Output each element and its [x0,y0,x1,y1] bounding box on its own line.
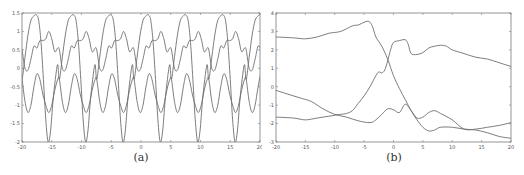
x-tick-label: 0 [139,144,142,150]
y-tick-label: -1 [15,102,20,108]
chart-a-caption: (a) [121,151,161,164]
y-tick-label: 4 [271,10,274,16]
y-tick-label: -3 [269,139,274,145]
x-tick-label: 0 [392,144,395,150]
chart-b-caption: (b) [374,151,414,164]
chart-panel-b: -20-15-10-505101520-3-2-101234 (b) [262,0,524,175]
y-tick-label: -2 [269,120,274,126]
y-tick-label: 3 [271,28,274,34]
series-line-curve-rising [276,40,511,120]
series-line-curve-3 [0,74,262,113]
x-tick-label: -15 [301,144,309,150]
x-tick-label: 15 [227,144,233,150]
x-tick-label: -10 [77,144,85,150]
y-tick-label: 0 [17,65,20,71]
x-tick-label: 5 [169,144,172,150]
y-tick-label: -1 [269,102,274,108]
x-tick-label: 5 [421,144,424,150]
axes-box [276,13,511,142]
x-tick-label: 10 [449,144,455,150]
axes-box [22,13,260,142]
y-tick-label: 0 [271,84,274,90]
y-tick-label: 1 [17,28,20,34]
y-tick-label: 2 [271,47,274,53]
chart-a-plot: -20-15-10-505101520-2-1.5-1-0.500.511.5 [0,0,262,175]
x-tick-label: 10 [197,144,203,150]
y-tick-label: -2 [15,139,20,145]
y-tick-label: 1 [271,65,274,71]
x-tick-label: -10 [331,144,339,150]
y-tick-label: 0.5 [12,47,20,53]
y-tick-label: 1.5 [12,10,20,16]
chart-b-plot: -20-15-10-505101520-3-2-101234 [262,0,524,175]
x-tick-label: 15 [478,144,484,150]
y-tick-label: -1.5 [10,120,20,126]
y-tick-label: -0.5 [10,84,20,90]
x-tick-label: -5 [362,144,367,150]
series-line-curve-top-falling [276,21,511,138]
chart-panel-a: -20-15-10-505101520-2-1.5-1-0.500.511.5 … [0,0,262,175]
x-tick-label: -15 [48,144,56,150]
x-tick-label: -5 [109,144,114,150]
series-line-curve-2 [0,31,262,71]
x-tick-label: 20 [508,144,514,150]
series-line-curve-bottom [276,90,511,129]
